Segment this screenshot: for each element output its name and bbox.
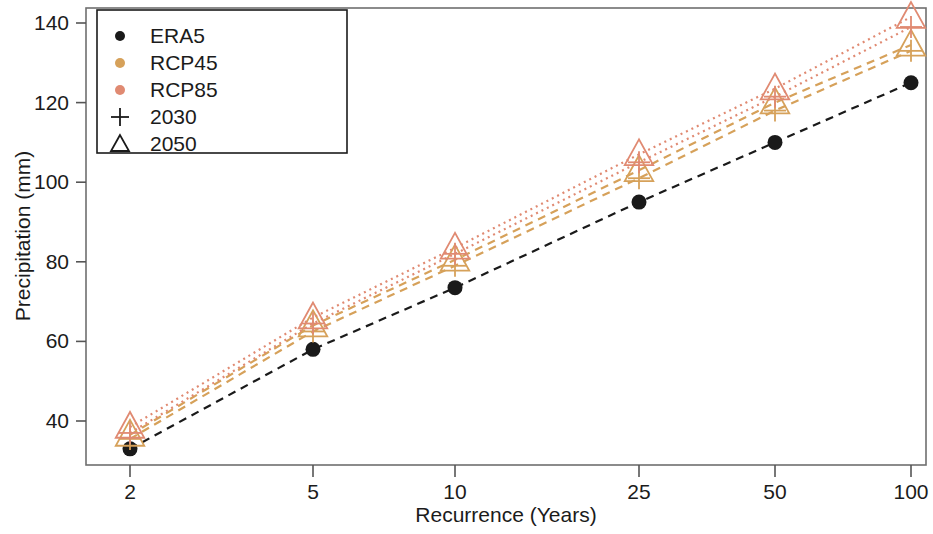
legend-label: 2030 — [150, 105, 197, 128]
y-tick-label: 60 — [46, 329, 69, 352]
y-axis-title: Precipitation (mm) — [11, 151, 34, 321]
legend-dot-icon — [115, 58, 125, 68]
x-tick-label: 25 — [627, 480, 650, 503]
x-tick-label: 100 — [893, 480, 928, 503]
legend-label: RCP85 — [150, 78, 218, 101]
precipitation-recurrence-chart: 406080100120140 25102550100 Precipitatio… — [0, 0, 933, 534]
x-tick-label: 50 — [763, 480, 786, 503]
legend-dot-icon — [115, 31, 125, 41]
x-axis-title: Recurrence (Years) — [415, 503, 596, 526]
legend-label: RCP45 — [150, 51, 218, 74]
y-tick-label: 80 — [46, 250, 69, 273]
y-tick-label: 40 — [46, 409, 69, 432]
x-tick-label: 10 — [443, 480, 466, 503]
y-tick-label: 120 — [34, 91, 69, 114]
legend-label: 2050 — [150, 132, 197, 155]
legend-label: ERA5 — [150, 24, 205, 47]
x-tick-label: 2 — [124, 480, 136, 503]
data-point-circle — [306, 342, 321, 357]
data-point-circle — [448, 280, 463, 295]
x-tick-label: 5 — [307, 480, 319, 503]
data-point-circle — [904, 75, 919, 90]
data-point-circle — [768, 135, 783, 150]
y-tick-label: 100 — [34, 170, 69, 193]
legend: ERA5RCP45RCP8520302050 — [97, 10, 347, 155]
legend-dot-icon — [115, 85, 125, 95]
legend-box — [97, 10, 347, 153]
data-point-circle — [632, 195, 647, 210]
chart-figure: 406080100120140 25102550100 Precipitatio… — [0, 0, 933, 534]
y-tick-label: 140 — [34, 11, 69, 34]
